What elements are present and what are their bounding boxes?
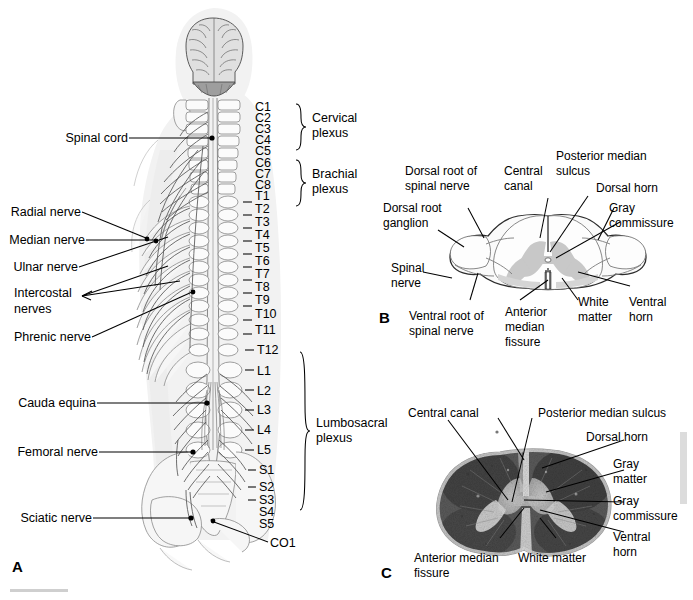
label-b-white-matter-line2: matter: [578, 310, 612, 324]
label-lumbosacral-plexus-line2: plexus: [316, 431, 352, 445]
label-vertebra-t3: T3: [255, 215, 270, 229]
label-c-gray-matter-line1: Gray: [613, 457, 639, 471]
panel-label-b: B: [379, 309, 390, 326]
label-median-nerve: Median nerve: [9, 233, 85, 247]
label-vertebra-t6: T6: [255, 254, 270, 268]
panel-label-a: A: [12, 558, 23, 575]
label-b-dorsal-horn: Dorsal horn: [596, 181, 658, 195]
label-c-gray-matter-line2: matter: [613, 472, 647, 486]
label-b-ventral-horn-line1: Ventral: [629, 295, 666, 309]
label-b-central-canal-line2: canal: [504, 179, 533, 193]
plexus-brackets: [296, 104, 310, 510]
label-c-gray-commissure-line1: Gray: [613, 494, 639, 508]
label-vertebra-l4: L4: [257, 423, 271, 437]
panel-a-illustration: [79, 8, 310, 570]
label-radial-nerve: Radial nerve: [11, 205, 81, 219]
label-b-drg-line2: ganglion: [383, 216, 428, 230]
label-b-amf-line1: Anterior: [505, 305, 547, 319]
label-b-pms-line2: sulcus: [556, 164, 590, 178]
label-b-gray-commissure-line2: commissure: [609, 216, 674, 230]
label-b-dorsal-root-line2: spinal nerve: [405, 179, 470, 193]
label-c-white-matter: White matter: [518, 551, 586, 565]
label-b-spinal-nerve-line1: Spinal: [391, 261, 424, 275]
label-vertebra-t5: T5: [255, 241, 270, 255]
label-cervical-plexus-line1: Cervical: [312, 111, 357, 125]
label-b-ventral-root-line2: spinal nerve: [409, 324, 474, 338]
label-vertebra-l1: L1: [257, 364, 271, 378]
label-vertebra-t7: T7: [255, 267, 270, 281]
label-femoral-nerve: Femoral nerve: [17, 445, 98, 459]
label-lumbosacral-plexus-line1: Lumbosacral: [316, 416, 388, 430]
label-vertebra-co1: CO1: [270, 536, 296, 550]
label-vertebra-s2: S2: [259, 480, 274, 494]
label-brachial-plexus-line1: Brachial: [312, 167, 357, 181]
label-vertebra-t2: T2: [255, 202, 270, 216]
label-vertebra-l2: L2: [257, 384, 271, 398]
footer-rule: [10, 589, 68, 592]
label-b-white-matter-line1: White: [578, 295, 609, 309]
label-c-dorsal-horn: Dorsal horn: [586, 430, 648, 444]
label-c-gray-commissure-line2: commissure: [613, 509, 678, 523]
label-vertebra-t9: T9: [255, 293, 270, 307]
label-vertebra-t11: T11: [255, 323, 276, 337]
label-vertebra-t8: T8: [255, 280, 270, 294]
label-ulnar-nerve: Ulnar nerve: [13, 260, 78, 274]
label-vertebra-t12: T12: [257, 343, 279, 357]
label-phrenic-nerve: Phrenic nerve: [14, 330, 91, 344]
label-b-dorsal-root-line1: Dorsal root of: [405, 164, 478, 178]
right-edge-bar: [680, 432, 687, 504]
label-b-ventral-horn-line2: horn: [629, 310, 653, 324]
figure-spinal-cord: Spinal cord Radial nerve Median nerve Ul…: [0, 0, 693, 600]
label-intercostal-nerves: Intercostal: [14, 286, 72, 300]
label-c-ventral-horn-line2: horn: [613, 545, 637, 559]
label-brachial-plexus-line2: plexus: [312, 182, 348, 196]
label-spinal-cord: Spinal cord: [65, 131, 128, 145]
label-b-amf-line2: median: [505, 320, 544, 334]
label-b-gray-commissure-line1: Gray: [609, 201, 635, 215]
label-c-amf-line1: Anterior median: [414, 551, 499, 565]
label-vertebra-t10: T10: [255, 307, 277, 321]
label-b-spinal-nerve-line2: nerve: [391, 276, 421, 290]
brain-illustration: [186, 18, 243, 96]
label-b-pms-line1: Posterior median: [556, 149, 647, 163]
label-b-central-canal-line1: Central: [504, 164, 543, 178]
label-b-amf-line3: fissure: [505, 335, 541, 349]
label-c-amf-line2: fissure: [414, 566, 450, 580]
label-intercostal-nerves-line2: nerves: [14, 302, 52, 316]
panel-label-c: C: [381, 564, 392, 581]
label-cervical-plexus-line2: plexus: [312, 126, 348, 140]
label-c-central-canal: Central canal: [408, 406, 479, 420]
label-vertebra-t4: T4: [255, 228, 270, 242]
label-vertebra-s1: S1: [259, 463, 274, 477]
label-b-ventral-root-line1: Ventral root of: [409, 309, 484, 323]
label-vertebra-t1: T1: [255, 189, 270, 203]
label-b-drg-line1: Dorsal root: [383, 201, 442, 215]
label-vertebra-l3: L3: [257, 403, 271, 417]
label-vertebra-s5: S5: [259, 517, 274, 531]
label-vertebra-l5: L5: [257, 443, 271, 457]
label-sciatic-nerve: Sciatic nerve: [20, 511, 92, 525]
label-cauda-equina: Cauda equina: [18, 396, 96, 410]
label-c-ventral-horn-line1: Ventral: [613, 530, 650, 544]
label-c-pms: Posterior median sulcus: [538, 406, 666, 420]
